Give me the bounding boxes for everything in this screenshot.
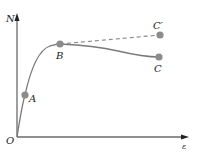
point-b-label: B	[55, 50, 63, 61]
y-axis-label: N	[5, 13, 16, 24]
point-c	[155, 53, 162, 60]
point-c-label: C	[154, 63, 162, 74]
curve-oabc	[17, 44, 159, 137]
x-axis-arrow-icon	[181, 135, 189, 140]
origin-label: O	[6, 135, 14, 146]
diagram-canvas: N ε O A B C C′	[0, 0, 202, 160]
y-axis-arrow-icon	[15, 13, 20, 21]
point-b	[56, 40, 63, 47]
point-a-label: A	[28, 93, 36, 104]
curve-bc-prime	[60, 35, 160, 44]
point-c-prime	[156, 31, 163, 38]
force-strain-diagram: N ε O A B C C′	[0, 0, 202, 160]
point-c-prime-label: C′	[153, 20, 164, 31]
x-axis-label: ε	[182, 142, 186, 151]
point-a	[21, 91, 28, 98]
